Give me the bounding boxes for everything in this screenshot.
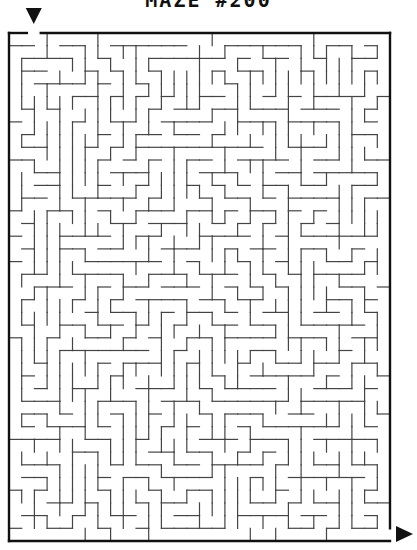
maze-walls xyxy=(9,33,390,541)
maze-board[interactable] xyxy=(0,0,417,550)
exit-arrow-icon xyxy=(396,526,413,542)
start-arrow-icon xyxy=(26,8,42,24)
